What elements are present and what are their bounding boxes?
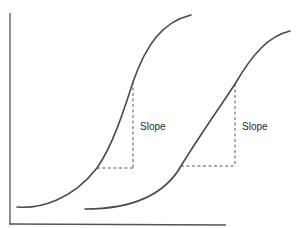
sigmoid-curve-1	[17, 15, 191, 207]
diagram-canvas	[0, 0, 303, 228]
x-axis	[9, 224, 226, 225]
sigmoid-slope-diagram: Slope Slope	[0, 0, 303, 228]
slope-label-2: Slope	[242, 122, 268, 132]
slope-label-1: Slope	[140, 122, 166, 132]
sigmoid-curve-2	[85, 31, 290, 209]
